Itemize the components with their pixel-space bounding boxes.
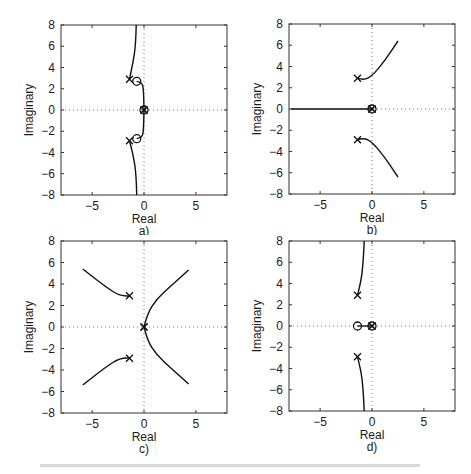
y-tick-label: 4 [276,60,283,74]
x-tick-label: −5 [313,198,327,212]
y-tick-label: −4 [41,146,55,160]
y-tick-label: 8 [48,18,55,32]
y-tick-label: 6 [276,38,283,52]
subplot-label: a) [139,224,150,235]
y-tick-label: 0 [48,320,55,334]
y-tick-label: −2 [269,123,283,137]
y-tick-label: −8 [41,188,55,202]
locus-branch [357,241,364,295]
y-tick-label: −8 [269,187,283,201]
subplot-label: d) [367,440,378,454]
root-locus-panel-d: 86420−2−4−6−8−505Reald)Imaginary [235,235,471,460]
locus-branch [357,357,364,411]
locus-branch [129,141,136,195]
x-tick-label: 5 [421,415,428,429]
locus-branch [357,41,397,79]
y-tick-label: −2 [41,124,55,138]
y-tick-label: −2 [269,340,283,354]
y-tick-label: −4 [41,363,55,377]
x-tick-label: −5 [85,199,99,213]
y-tick-label: 0 [276,319,283,333]
y-tick-label: 8 [48,235,55,248]
locus-branch [83,358,130,385]
x-tick-label: 0 [369,198,376,212]
root-locus-panel-c: 86420−2−4−6−8−505Realc)Imaginary [0,235,235,460]
y-tick-label: 6 [48,39,55,53]
y-tick-label: 2 [276,298,283,312]
y-tick-label: 4 [276,277,283,291]
locus-branch [144,327,189,384]
x-tick-label: 0 [369,415,376,429]
y-tick-label: 4 [48,277,55,291]
chart-d: 86420−2−4−6−8−505Reald)Imaginary [235,235,471,460]
y-tick-label: −8 [269,404,283,418]
y-tick-label: 2 [48,82,55,96]
subplot-label: b) [367,223,378,235]
y-axis-label: Imaginary [250,300,264,353]
y-tick-label: −2 [41,342,55,356]
y-axis-label: Imaginary [250,83,264,136]
locus-branch [144,270,189,327]
chart-c: 86420−2−4−6−8−505Realc)Imaginary [0,235,235,460]
y-axis-label: Imaginary [22,84,36,137]
y-tick-label: −6 [269,383,283,397]
chart-b: 86420−2−4−6−8−505Realb)Imaginary [235,0,471,235]
x-tick-label: 5 [193,199,200,213]
y-axis-label: Imaginary [22,301,36,354]
x-tick-label: −5 [313,415,327,429]
y-tick-label: 8 [276,17,283,31]
root-locus-panel-a: 86420−2−4−6−8−505Reala)Imaginary [0,0,235,235]
x-tick-label: 0 [141,417,148,431]
y-tick-label: 0 [48,103,55,117]
locus-branch [357,139,397,177]
y-tick-label: −6 [41,385,55,399]
y-tick-label: −6 [269,166,283,180]
y-tick-label: 6 [48,256,55,270]
y-tick-label: 0 [276,102,283,116]
y-tick-label: −4 [269,362,283,376]
x-tick-label: −5 [85,417,99,431]
y-tick-label: −8 [41,406,55,420]
y-tick-label: 2 [276,81,283,95]
locus-branch [129,25,136,79]
chart-a: 86420−2−4−6−8−505Reala)Imaginary [0,0,235,235]
y-tick-label: 2 [48,299,55,313]
locus-branch [83,269,130,296]
cut-off-caption [40,462,420,468]
x-tick-label: 5 [193,417,200,431]
y-tick-label: −4 [269,145,283,159]
subplot-label: c) [139,442,149,456]
y-tick-label: 6 [276,255,283,269]
x-tick-label: 5 [421,198,428,212]
y-tick-label: 4 [48,61,55,75]
y-tick-label: 8 [276,235,283,248]
x-tick-label: 0 [141,199,148,213]
root-locus-panel-b: 86420−2−4−6−8−505Realb)Imaginary [235,0,471,235]
y-tick-label: −6 [41,167,55,181]
